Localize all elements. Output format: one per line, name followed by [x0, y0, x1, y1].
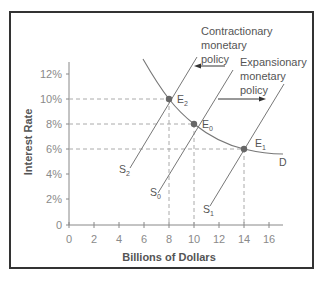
- point-e1: [241, 146, 247, 152]
- svg-text:10: 10: [188, 233, 200, 245]
- label-e0: E0: [202, 118, 213, 132]
- svg-text:monetary: monetary: [240, 70, 286, 82]
- supply-line-s2: [130, 57, 197, 168]
- supply-line-s0: [158, 70, 233, 193]
- y-axis-label: Interest Rate: [22, 109, 34, 176]
- arrow-left-icon: [194, 64, 201, 69]
- svg-text:4%: 4%: [46, 168, 62, 180]
- label-s1: S1: [203, 203, 214, 217]
- svg-text:4: 4: [116, 233, 122, 245]
- svg-text:6%: 6%: [46, 143, 62, 155]
- svg-text:8%: 8%: [46, 118, 62, 130]
- svg-text:16: 16: [263, 233, 275, 245]
- arrow-right-icon: [259, 97, 266, 102]
- label-e1: E1: [255, 137, 266, 151]
- guide-lines: [69, 99, 244, 225]
- label-d: D: [279, 156, 287, 168]
- x-axis-label: Billions of Dollars: [122, 251, 216, 263]
- svg-text:Expansionary: Expansionary: [240, 56, 307, 68]
- svg-text:12: 12: [213, 233, 225, 245]
- expansionary-annotation: Expansionary monetary policy: [218, 56, 307, 102]
- svg-text:2%: 2%: [46, 193, 62, 205]
- svg-text:10%: 10%: [40, 93, 62, 105]
- svg-text:0: 0: [56, 219, 62, 231]
- svg-text:policy: policy: [201, 53, 230, 65]
- svg-text:Contractionary: Contractionary: [201, 25, 273, 37]
- svg-text:monetary: monetary: [201, 39, 247, 51]
- svg-text:14: 14: [238, 233, 250, 245]
- label-s0: S0: [150, 186, 161, 200]
- label-e2: E2: [177, 93, 188, 107]
- svg-text:0: 0: [66, 233, 72, 245]
- supply-line-s1: [210, 84, 284, 206]
- svg-text:12%: 12%: [40, 68, 62, 80]
- svg-text:8: 8: [166, 233, 172, 245]
- y-tick-labels: 0 2% 4% 6% 8% 10% 12%: [40, 68, 62, 231]
- svg-text:2: 2: [91, 233, 97, 245]
- money-market-chart: 0 2% 4% 6% 8% 10% 12% 0 2 4 6 8 10 12 14…: [0, 0, 326, 286]
- svg-text:policy: policy: [240, 84, 269, 96]
- label-s2: S2: [119, 163, 130, 177]
- point-e2: [166, 96, 172, 102]
- point-e0: [191, 121, 197, 127]
- x-tick-labels: 0 2 4 6 8 10 12 14 16: [66, 233, 275, 245]
- svg-text:6: 6: [141, 233, 147, 245]
